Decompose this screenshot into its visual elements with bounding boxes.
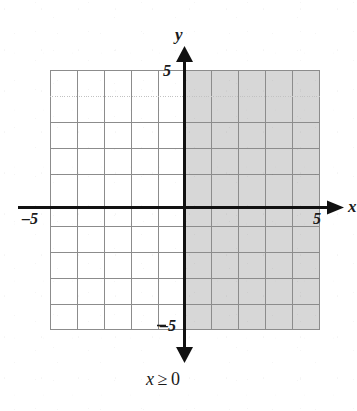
caption-variable: x bbox=[146, 369, 155, 389]
x-axis-label: x bbox=[348, 198, 357, 215]
caption-value: 0 bbox=[171, 369, 181, 389]
y-axis-arrow-down-icon bbox=[176, 347, 193, 363]
shaded-region-x-ge-0 bbox=[184, 70, 320, 330]
y-tick-label-5: 5 bbox=[163, 63, 171, 79]
y-axis-arrow-up-icon bbox=[176, 46, 193, 62]
x-tick-label-5: 5 bbox=[313, 211, 321, 227]
graph-svg bbox=[0, 0, 357, 411]
caption-relation: ≥ bbox=[158, 369, 168, 389]
x-tick-label-minus-5: –5 bbox=[22, 211, 38, 227]
x-axis-arrow-right-icon bbox=[327, 201, 344, 215]
y-tick-label-minus-5: –5 bbox=[160, 318, 176, 334]
inequality-caption: x≥0 bbox=[146, 370, 180, 388]
y-axis-label: y bbox=[175, 26, 183, 43]
coordinate-plane-figure: y x 5 –5 –5 5 x≥0 bbox=[0, 0, 357, 411]
